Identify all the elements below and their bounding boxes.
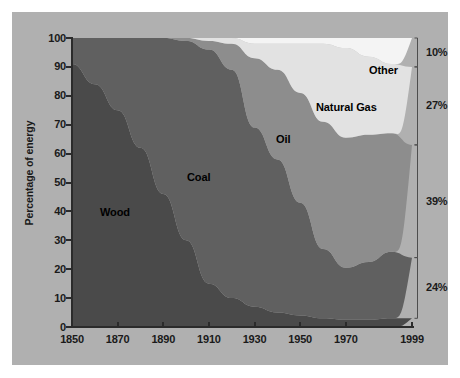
y-tick-mark: [66, 95, 72, 97]
series-label-natural-gas: Natural Gas: [316, 101, 377, 113]
x-tick-mark: [162, 322, 164, 328]
x-axis-line: [71, 326, 414, 328]
bracket-percent-coal: 24%: [426, 282, 447, 293]
x-tick-mark: [117, 322, 119, 328]
bracket-natural-gas: [415, 67, 418, 145]
stacked-area-plot: [72, 38, 412, 327]
x-tick-mark: [254, 322, 256, 328]
y-tick-label: 100: [48, 33, 66, 44]
series-label-oil: Oil: [276, 133, 290, 145]
y-axis-title: Percentage of energy: [23, 93, 35, 253]
x-tick-mark: [208, 322, 210, 328]
series-label-wood: Wood: [100, 206, 130, 218]
x-tick-label: 1850: [49, 334, 95, 345]
bracket-other: [415, 38, 418, 67]
y-tick-mark: [66, 124, 72, 126]
x-tick-mark: [299, 322, 301, 328]
y-tick-label: 70: [54, 119, 66, 130]
x-tick-label: 1910: [186, 334, 232, 345]
area-bands-group: [72, 38, 412, 327]
y-tick-mark: [66, 37, 72, 39]
y-tick-mark: [66, 182, 72, 184]
x-tick-mark: [71, 322, 73, 328]
y-tick-label: 80: [54, 90, 66, 101]
y-tick-mark: [66, 268, 72, 270]
y-tick-mark: [66, 297, 72, 299]
bracket-percent-other: 10%: [426, 47, 447, 58]
y-tick-label: 40: [54, 206, 66, 217]
bracket-svg: [412, 12, 448, 365]
y-tick-label: 60: [54, 148, 66, 159]
y-tick-label: 30: [54, 235, 66, 246]
plot-wrapper: 0102030405060708090100 18501870189019101…: [12, 12, 448, 365]
y-tick-label: 20: [54, 264, 66, 275]
y-tick-label: 10: [54, 293, 66, 304]
bracket-coal: [415, 258, 418, 319]
bracket-percent-oil: 39%: [426, 196, 447, 207]
bracket-oil: [415, 145, 418, 258]
y-tick-mark: [66, 66, 72, 68]
x-tick-label: 1970: [323, 334, 369, 345]
series-label-coal: Coal: [187, 171, 210, 183]
y-tick-label: 90: [54, 61, 66, 72]
area-chart-svg: [72, 38, 412, 327]
x-tick-label: 1930: [232, 334, 278, 345]
y-tick-mark: [66, 239, 72, 241]
x-tick-label: 1870: [95, 334, 141, 345]
y-tick-label: 50: [54, 177, 66, 188]
y-tick-mark: [66, 210, 72, 212]
y-tick-mark: [66, 153, 72, 155]
series-label-other: Other: [369, 64, 398, 76]
x-tick-label: 1950: [277, 334, 323, 345]
bracket-percent-natural-gas: 27%: [426, 100, 447, 111]
x-tick-label: 1890: [140, 334, 186, 345]
end-share-brackets: 10%27%39%24%: [412, 12, 448, 365]
chart-figure: 0102030405060708090100 18501870189019101…: [12, 12, 448, 365]
x-tick-mark: [345, 322, 347, 328]
bracket-paths-group: [415, 38, 418, 318]
